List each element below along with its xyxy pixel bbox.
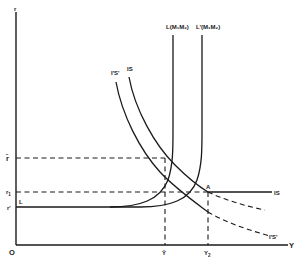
r1-label: r1 [6, 189, 11, 197]
x-axis-label: Y [289, 241, 294, 250]
is-right-label: IS [274, 190, 280, 196]
is-prime-right-label: I'S' [269, 234, 278, 240]
is-lm-diagram: r Y O r̄ r1 r' L Ȳ Y2 L(M₁M₂) L'(M₁M₂) I… [0, 0, 300, 272]
l-curve-label: L(M₁M₂) [166, 24, 189, 30]
is-prime-curve-label: I'S' [111, 70, 120, 76]
origin-label: O [9, 248, 15, 257]
lm-curve-l-prime [110, 35, 202, 207]
is-prime-dashed-extension [208, 212, 270, 236]
l-start-label: L [19, 199, 23, 205]
is-curve [129, 77, 208, 192]
y2-label: Y2 [204, 250, 211, 258]
y-bar-label: Ȳ [162, 250, 166, 256]
point-a-label: A [206, 184, 211, 190]
is-curve-label: IS [127, 66, 133, 72]
lm-curve-l [16, 35, 173, 207]
r-prime-label: r' [7, 205, 11, 211]
l-prime-curve-label: L'(M₁M₂) [196, 24, 220, 30]
r-bar-label: r̄ [5, 154, 9, 163]
y-axis-label: r [14, 6, 17, 12]
is-dashed-extension [208, 192, 265, 210]
